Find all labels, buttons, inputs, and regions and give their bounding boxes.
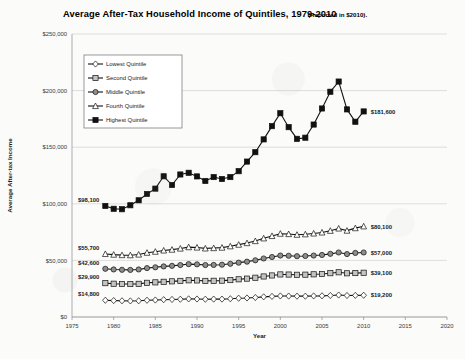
- data-point: [336, 270, 341, 275]
- data-point: [178, 262, 183, 267]
- data-point: [211, 278, 216, 283]
- data-point: [111, 267, 116, 272]
- data-point: [353, 292, 359, 298]
- chart-title: Average After-Tax Household Income of Qu…: [63, 9, 337, 19]
- data-point: [286, 293, 292, 299]
- chart-svg: Average After-Tax Household Income of Qu…: [0, 0, 465, 359]
- data-point: [178, 296, 184, 302]
- y-tick-label: $250,000: [42, 31, 67, 37]
- data-point: [319, 293, 325, 299]
- data-point: [144, 265, 149, 270]
- chart-subtitle: (Reported in $2010).: [308, 11, 367, 18]
- legend-label: Lowest Quintile: [106, 61, 147, 67]
- series-start-label: $98,100: [78, 197, 100, 203]
- data-point: [169, 279, 174, 284]
- data-point: [336, 292, 342, 298]
- data-point: [361, 250, 366, 255]
- data-point: [169, 182, 174, 187]
- data-point: [286, 253, 291, 258]
- data-point: [194, 262, 199, 267]
- legend-label: Highest Quintile: [106, 117, 148, 123]
- data-point: [319, 106, 324, 111]
- data-point: [144, 280, 149, 285]
- data-point: [236, 295, 242, 301]
- data-point: [294, 293, 300, 299]
- data-point: [286, 125, 291, 130]
- data-point: [119, 281, 124, 286]
- data-point: [336, 225, 342, 231]
- data-point: [269, 293, 275, 299]
- data-point: [311, 293, 317, 299]
- data-point: [236, 277, 241, 282]
- series-start-label: $55,700: [78, 245, 100, 251]
- data-point: [186, 170, 191, 175]
- data-point: [136, 298, 142, 304]
- series-end-label: $19,200: [371, 292, 393, 298]
- data-point: [294, 272, 299, 277]
- data-point: [219, 176, 224, 181]
- data-point: [111, 297, 117, 303]
- data-point: [211, 174, 216, 179]
- legend: Lowest QuintileSecond QuintileMiddle Qui…: [84, 55, 182, 128]
- legend-label: Fourth Quintile: [106, 103, 145, 109]
- data-point: [236, 260, 241, 265]
- y-axis-title: Average After-tax Income: [6, 138, 13, 213]
- data-point: [228, 261, 233, 266]
- data-point: [103, 281, 108, 286]
- y-tick-label: $150,000: [42, 144, 67, 150]
- data-point: [161, 297, 167, 303]
- data-point: [211, 296, 217, 302]
- data-point: [269, 124, 274, 129]
- data-point: [244, 295, 250, 301]
- y-tick-label: $50,000: [46, 258, 68, 264]
- data-point: [244, 259, 249, 264]
- data-point: [328, 89, 333, 94]
- x-tick-label: 1985: [149, 323, 163, 329]
- legend-marker: [93, 75, 98, 80]
- data-point: [328, 271, 333, 276]
- data-point: [103, 203, 108, 208]
- data-point: [103, 297, 109, 303]
- data-point: [311, 253, 316, 258]
- x-tick-label: 2010: [357, 323, 371, 329]
- data-point: [353, 119, 358, 124]
- data-point: [203, 178, 208, 183]
- data-point: [128, 203, 133, 208]
- data-point: [219, 278, 224, 283]
- legend-label: Second Quintile: [106, 75, 148, 81]
- data-point: [311, 272, 316, 277]
- data-point: [169, 296, 175, 302]
- data-point: [361, 109, 366, 114]
- data-point: [144, 191, 149, 196]
- data-point: [219, 262, 224, 267]
- series-start-label: $14,800: [78, 291, 100, 297]
- data-point: [328, 251, 333, 256]
- data-point: [194, 278, 199, 283]
- data-point: [253, 275, 258, 280]
- data-point: [194, 296, 200, 302]
- data-point: [253, 294, 259, 300]
- x-tick-label: 2005: [315, 323, 329, 329]
- series-start-label: $42,600: [78, 260, 100, 266]
- data-point: [136, 267, 141, 272]
- data-point: [336, 250, 341, 255]
- data-point: [303, 293, 309, 299]
- legend-label: Middle Quintile: [106, 89, 146, 95]
- data-point: [228, 277, 233, 282]
- data-point: [161, 174, 166, 179]
- data-point: [136, 281, 141, 286]
- data-point: [286, 272, 291, 277]
- data-point: [203, 278, 208, 283]
- x-tick-label: 2020: [440, 323, 454, 329]
- data-point: [269, 273, 274, 278]
- data-point: [353, 270, 358, 275]
- data-point: [219, 296, 225, 302]
- data-point: [294, 254, 299, 259]
- data-point: [228, 296, 234, 302]
- legend-marker: [93, 89, 98, 94]
- x-tick-label: 1995: [232, 323, 246, 329]
- data-point: [153, 280, 158, 285]
- data-point: [119, 298, 125, 304]
- data-point: [303, 272, 308, 277]
- data-point: [269, 254, 274, 259]
